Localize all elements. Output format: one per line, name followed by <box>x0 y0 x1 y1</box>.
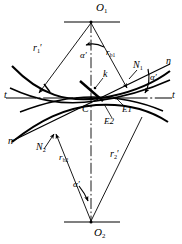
label-tangent-left: t <box>4 90 7 100</box>
label-pitch-radius-r2: r2′ <box>110 149 119 160</box>
label-normal-n1: N1 <box>133 60 143 70</box>
label-base-radius-rb1: rb1 <box>106 48 115 57</box>
label-line-of-action-left: n <box>8 136 13 146</box>
label-normal-n2: N2 <box>36 142 46 152</box>
label-pitch-radius-r1: r1′ <box>33 43 42 54</box>
label-line-of-action-right: n <box>166 56 171 66</box>
gear-addendum-arc <box>12 105 168 142</box>
label-pressure-angle-right: α′ <box>150 73 157 82</box>
label-center-o1: O1 <box>96 2 107 13</box>
base-radius-line-rb2 <box>56 134 91 221</box>
leader-n1 <box>129 70 137 79</box>
label-base-radius-rb2: rb2 <box>59 153 68 162</box>
point-k <box>94 87 97 90</box>
point-e1 <box>115 97 117 99</box>
gear-geometry-figure: O1 O2 r1′ r2′ rb1 rb2 N1 N2 n n t t α′ α… <box>0 0 182 244</box>
label-pressure-angle-top: α′ <box>80 51 87 60</box>
label-pressure-angle-bottom: α′ <box>73 180 80 189</box>
label-pitch-point-c: C <box>82 104 89 114</box>
pitch-radius-lines-group <box>39 23 142 221</box>
leader-k <box>96 78 103 87</box>
figure-drawing-canvas <box>0 0 182 244</box>
point-c <box>90 97 93 100</box>
pitch-radius-line-r2 <box>91 117 142 221</box>
label-tangent-right: t <box>172 90 175 100</box>
label-engage-point-e2: E2 <box>104 117 114 126</box>
label-center-o2: O2 <box>94 227 105 238</box>
label-contact-point-k: k <box>103 69 107 79</box>
label-engage-point-e1: E1 <box>122 105 132 114</box>
angle-arrow-top <box>86 44 104 47</box>
